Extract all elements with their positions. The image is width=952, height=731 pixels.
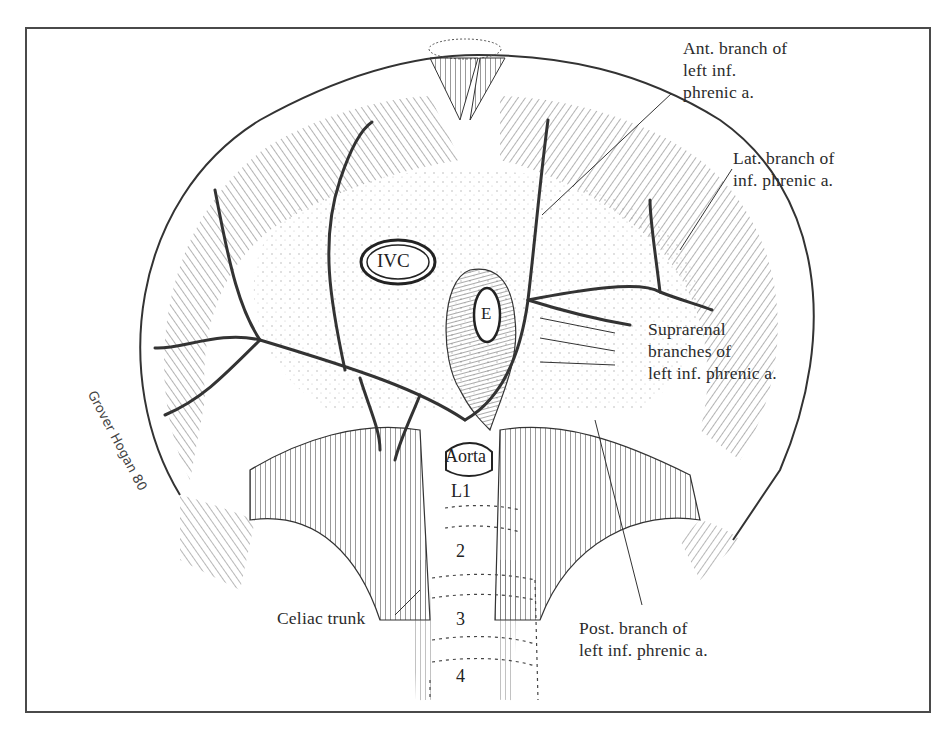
right-crus bbox=[250, 427, 430, 620]
left-crus bbox=[495, 427, 700, 620]
esophagus-label: E bbox=[481, 304, 491, 324]
celiac-trunk-label: Celiac trunk bbox=[277, 607, 365, 629]
vertebra-3-label: 3 bbox=[456, 609, 465, 630]
suprarenal-branches-label: Suprarenal branches of left inf. phrenic… bbox=[648, 318, 777, 384]
vertebra-4-label: 4 bbox=[456, 666, 465, 687]
lat-branch-label: Lat. branch of inf. phrenic a. bbox=[733, 147, 834, 191]
vertebra-l1-label: L1 bbox=[451, 481, 471, 502]
ivc-label: IVC bbox=[377, 250, 410, 272]
aorta-label: Aorta bbox=[445, 446, 486, 467]
diaphragm-illustration bbox=[0, 0, 952, 731]
post-branch-label: Post. branch of left inf. phrenic a. bbox=[579, 617, 708, 661]
ant-branch-label: Ant. branch of left inf. phrenic a. bbox=[683, 37, 787, 103]
vertebra-2-label: 2 bbox=[456, 541, 465, 562]
